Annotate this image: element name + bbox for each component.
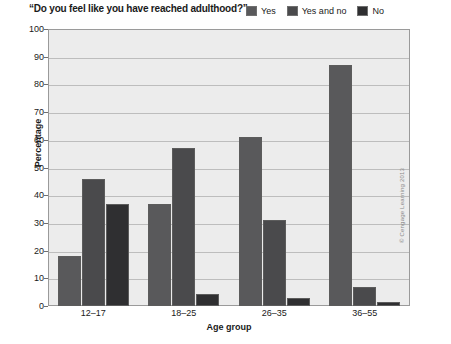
legend-swatch-icon <box>287 6 298 16</box>
bar-group <box>48 29 139 306</box>
bar-group <box>229 29 320 306</box>
legend-label: Yes and no <box>302 6 347 16</box>
x-axis-title: Age group <box>48 322 410 332</box>
x-axis-tick-label: 36–55 <box>352 308 377 318</box>
bar-yes-and-no-36–55[interactable] <box>353 287 376 306</box>
legend-item-no[interactable]: No <box>357 6 384 16</box>
bar-no-36–55[interactable] <box>377 302 400 306</box>
y-axis-tick <box>44 306 48 307</box>
bar-group <box>139 29 230 306</box>
bars-layer <box>48 29 410 306</box>
chart-legend: YesYes and noNo <box>246 5 384 17</box>
bar-yes-and-no-12–17[interactable] <box>82 179 105 306</box>
y-axis-tick-label: 100 <box>29 24 44 34</box>
legend-item-yes[interactable]: Yes <box>246 6 276 16</box>
bar-no-18–25[interactable] <box>196 294 219 306</box>
y-axis-tick-label: 90 <box>34 52 44 62</box>
legend-label: No <box>372 6 384 16</box>
bar-yes-36–55[interactable] <box>329 65 352 306</box>
legend-swatch-icon <box>246 6 257 16</box>
legend-item-yes-and-no[interactable]: Yes and no <box>287 6 347 16</box>
x-axis-tick-label: 18–25 <box>171 308 196 318</box>
x-axis-tick-label: 12–17 <box>81 308 106 318</box>
legend-swatch-icon <box>357 6 368 16</box>
bar-yes-26–35[interactable] <box>239 137 262 306</box>
x-axis-tick-labels: 12–1718–2526–3536–55 <box>48 308 410 322</box>
chart-title: “Do you feel like you have reached adult… <box>29 3 248 14</box>
bar-no-26–35[interactable] <box>287 298 310 306</box>
figure-canvas: “Do you feel like you have reached adult… <box>0 0 451 344</box>
y-axis-title: Percentage <box>33 83 43 203</box>
bar-no-12–17[interactable] <box>106 204 129 306</box>
y-axis-tick-label: 20 <box>34 246 44 256</box>
bar-yes-12–17[interactable] <box>58 256 81 306</box>
bar-yes-and-no-18–25[interactable] <box>172 148 195 306</box>
x-axis-tick-label: 26–35 <box>262 308 287 318</box>
bar-group <box>320 29 411 306</box>
y-axis-tick-label: 30 <box>34 218 44 228</box>
bar-yes-18–25[interactable] <box>148 204 171 306</box>
legend-label: Yes <box>261 6 276 16</box>
y-axis-tick-label: 10 <box>34 273 44 283</box>
copyright-credit: © Cengage Learning 2013 <box>399 153 405 243</box>
bar-yes-and-no-26–35[interactable] <box>263 220 286 306</box>
